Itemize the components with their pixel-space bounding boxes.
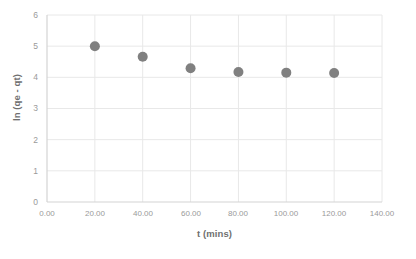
chart-svg — [0, 0, 416, 225]
y-tick-label-0: 0 — [14, 197, 38, 207]
y-tick-label-2: 2 — [14, 135, 38, 145]
data-point — [281, 68, 291, 78]
data-point — [329, 68, 339, 78]
data-point — [186, 63, 196, 73]
x-tick-label-100: 100.00 — [263, 209, 309, 219]
x-tick-label-140: 140.00 — [359, 209, 405, 219]
y-tick-label-3: 3 — [14, 103, 38, 113]
data-point — [138, 52, 148, 62]
figure-container: ln (qe - qt) t (mins) 6 5 4 3 2 1 0 0.00… — [0, 0, 416, 259]
y-tick-label-6: 6 — [14, 10, 38, 20]
data-point — [90, 41, 100, 51]
x-tick-label-120: 120.00 — [311, 209, 357, 219]
y-tick-label-5: 5 — [14, 41, 38, 51]
y-tick-label-4: 4 — [14, 72, 38, 82]
y-tick-label-1: 1 — [14, 166, 38, 176]
chart-plot-area: ln (qe - qt) t (mins) 6 5 4 3 2 1 0 0.00… — [0, 0, 416, 225]
x-axis-title: t (mins) — [47, 228, 382, 239]
x-tick-label-0: 0.00 — [24, 209, 70, 219]
x-tick-label-40: 40.00 — [120, 209, 166, 219]
x-tick-label-60: 60.00 — [168, 209, 214, 219]
data-point — [233, 67, 243, 77]
x-tick-label-20: 20.00 — [72, 209, 118, 219]
x-tick-label-80: 80.00 — [215, 209, 261, 219]
